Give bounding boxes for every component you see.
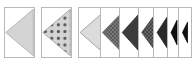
triangle-marker-icon: [42, 8, 71, 57]
triangle-marker-icon: [179, 8, 191, 57]
triangle-marker-strip: [0, 0, 196, 65]
cell-9-black-triangle-smallest: [178, 7, 192, 58]
triangle-shape: [6, 9, 34, 56]
triangle-shape: [171, 20, 177, 45]
triangle-shape: [182, 22, 187, 43]
cell-1-light-triangle: [4, 7, 35, 58]
cell-2-dotted-triangle: [41, 7, 72, 58]
triangle-shape: [157, 17, 167, 47]
triangle-shape: [43, 9, 71, 56]
triangle-marker-icon: [5, 8, 34, 57]
